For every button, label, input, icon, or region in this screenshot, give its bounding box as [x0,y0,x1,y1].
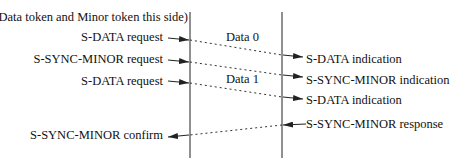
arrow-in-left-1 [168,38,189,40]
right-event-label: S-DATA indication [306,52,402,66]
arrow-in-left-2 [168,60,189,62]
left-event-label: S-DATA request [81,30,163,44]
arrow-out-left-4 [168,135,189,137]
side-note: (Data token and Minor token this side) [0,10,188,24]
left-event-label: S-SYNC-MINOR request [33,52,163,66]
message-dashed-4 [190,125,282,135]
left-event-label: S-SYNC-MINOR confirm [30,128,163,142]
right-event-label: S-SYNC-MINOR indication [306,73,449,87]
arrow-out-right-1 [283,55,303,57]
arrow-in-right-4 [283,124,306,125]
sequence-diagram: (Data token and Minor token this side) S… [0,0,451,164]
arrow-out-right-2 [283,75,303,77]
left-event-label: S-DATA request [81,74,163,88]
message-label: Data 0 [226,30,259,44]
right-event-label: S-DATA indication [306,93,402,107]
arrow-in-left-3 [168,81,189,83]
message-label: Data 1 [226,72,259,86]
arrow-out-right-3 [283,97,303,99]
right-event-label: S-SYNC-MINOR response [306,117,443,131]
